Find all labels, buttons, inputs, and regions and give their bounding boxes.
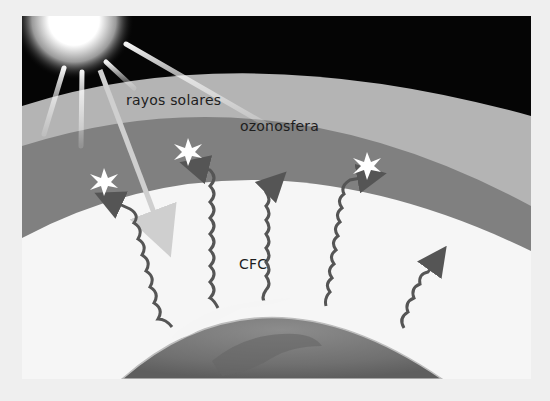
ozonosphere-label: ozonosfera: [240, 118, 319, 134]
page: rayos solares ozonosfera CFC: [0, 0, 550, 401]
cfc-label: CFC: [239, 256, 267, 272]
solar-rays-label: rayos solares: [126, 92, 221, 108]
ozone-diagram: [22, 16, 531, 379]
diagram-frame: rayos solares ozonosfera CFC: [22, 16, 531, 379]
